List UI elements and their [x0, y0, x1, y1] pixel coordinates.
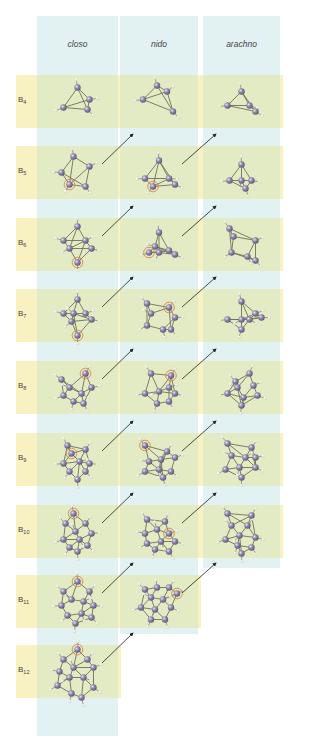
hydrogen-atom	[177, 116, 180, 119]
boron-atom	[172, 390, 178, 396]
hydrogen-atom	[146, 625, 149, 628]
boron-atom	[82, 310, 88, 316]
boron-atom	[74, 578, 80, 584]
boron-atom	[228, 249, 234, 255]
boron-atom	[172, 251, 178, 257]
boron-atom	[156, 466, 162, 472]
molecule-closo-B7	[54, 290, 101, 345]
hydrogen-atom	[261, 470, 264, 473]
hydrogen-atom	[176, 475, 179, 478]
hydrogen-atom	[58, 516, 61, 519]
hydrogen-atom	[50, 668, 53, 671]
hydrogen-atom	[240, 484, 243, 487]
arrow-closo-B11-to-nido-B10	[102, 563, 133, 593]
boron-atom	[142, 530, 148, 536]
boron-atom	[252, 237, 258, 243]
boron-atom	[66, 245, 72, 251]
hydrogen-atom	[76, 217, 79, 220]
hydrogen-atom	[223, 450, 226, 453]
hydrogen-atom	[76, 269, 79, 272]
hydrogen-atom	[255, 322, 258, 325]
hydrogen-atom	[141, 511, 144, 514]
boron-atom	[160, 474, 166, 480]
hydrogen-atom	[96, 97, 99, 100]
boron-atom	[82, 446, 88, 452]
hydrogen-atom	[166, 625, 169, 628]
boron-atom	[60, 460, 66, 466]
boron-atom	[148, 616, 154, 622]
boron-atom	[146, 458, 152, 464]
boron-atom	[142, 586, 148, 592]
arrow-nido-B6-to-arachno-B5	[182, 206, 216, 236]
bond	[143, 100, 173, 112]
hydrogen-atom	[268, 316, 271, 319]
hydrogen-atom	[175, 334, 178, 337]
hydrogen-atom	[218, 319, 221, 322]
hydrogen-atom	[181, 542, 184, 545]
bond	[147, 304, 169, 308]
boron-atom	[228, 452, 234, 458]
boron-atom	[72, 528, 78, 534]
boron-atom	[68, 596, 74, 602]
hydrogen-atom	[53, 373, 56, 376]
hydrogen-atom	[145, 365, 148, 368]
boron-atom	[166, 175, 172, 181]
boron-atom	[90, 664, 96, 670]
hydrogen-atom	[61, 679, 64, 682]
boron-atom	[222, 466, 228, 472]
boron-atom	[156, 388, 162, 394]
boron-atom	[142, 175, 148, 181]
hydrogen-atom	[240, 560, 243, 563]
boron-atom	[78, 390, 84, 396]
hydrogen-atom	[135, 177, 138, 180]
hydrogen-atom	[172, 579, 175, 582]
boron-atom	[76, 458, 82, 464]
hydrogen-atom	[172, 300, 175, 303]
hydrogen-atom	[99, 663, 102, 666]
boron-atom	[172, 314, 178, 320]
boron-atom	[74, 296, 80, 302]
boron-atom	[68, 450, 74, 456]
boron-atom	[244, 522, 250, 528]
molecule-nido-B4	[133, 76, 179, 119]
boron-atom	[66, 181, 72, 187]
boron-atom	[240, 394, 246, 400]
boron-atom	[76, 536, 82, 542]
molecule-closo-B11	[52, 572, 103, 633]
boron-atom	[154, 400, 160, 406]
hydrogen-atom	[89, 596, 92, 599]
arrow-closo-B6-to-nido-B5	[102, 206, 133, 236]
hydrogen-atom	[259, 265, 262, 268]
hydrogen-atom	[76, 342, 79, 345]
hydrogen-atom	[75, 78, 78, 81]
hydrogen-atom	[239, 82, 242, 85]
hydrogen-atom	[250, 451, 253, 454]
boron-atom	[82, 468, 88, 474]
boron-atom	[80, 674, 86, 680]
boron-atom	[166, 530, 172, 536]
hydrogen-atom	[220, 180, 223, 183]
hydrogen-atom	[174, 367, 177, 370]
hydrogen-atom	[262, 538, 265, 541]
hydrogen-atom	[166, 512, 169, 515]
hydrogen-atom	[255, 552, 258, 555]
hydrogen-atom	[136, 394, 139, 397]
hydrogen-atom	[239, 412, 242, 415]
boron-atom	[60, 237, 66, 243]
hydrogen-atom	[156, 223, 159, 226]
hydrogen-atom	[153, 520, 156, 523]
hydrogen-atom	[238, 292, 241, 295]
boron-atom	[88, 530, 94, 536]
hydrogen-atom	[140, 254, 143, 257]
boron-atom	[160, 596, 166, 602]
boron-atom	[234, 384, 240, 390]
boron-atom	[146, 249, 152, 255]
boron-atom	[158, 456, 164, 462]
hydrogen-atom	[140, 296, 143, 299]
bond	[228, 444, 252, 448]
boron-atom	[144, 300, 150, 306]
arrow-closo-B12-to-nido-B11	[102, 633, 133, 663]
hydrogen-atom	[137, 583, 140, 586]
molecule-nido-B5	[135, 151, 183, 194]
molecule-closo-B5	[52, 147, 98, 195]
